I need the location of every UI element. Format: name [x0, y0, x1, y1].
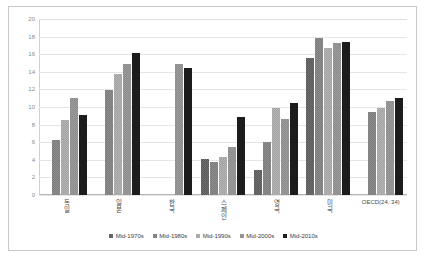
bar [333, 43, 341, 195]
plot-area: 02468101214161820 [39, 19, 407, 195]
bar-slot [123, 19, 131, 195]
legend-item-2[interactable]: Mid-1990s [196, 233, 231, 239]
bar [70, 98, 78, 195]
legend-item-1[interactable]: Mid-1980s [153, 233, 188, 239]
y-axis-tick-label: 8 [32, 122, 35, 128]
legend-item-0[interactable]: Mid-1970s [109, 233, 144, 239]
bar-slot [368, 19, 376, 195]
legend-label: Mid-2010s [290, 233, 318, 239]
bar [228, 147, 236, 195]
x-axis-labels: 독일일본한국스페인영국미국OECD(24, 34) [39, 197, 407, 231]
bar-slot [377, 19, 385, 195]
bar-slot [148, 19, 156, 195]
legend-swatch-icon [240, 234, 244, 238]
bar [79, 115, 87, 195]
legend-item-3[interactable]: Mid-2000s [240, 233, 275, 239]
x-axis-label: 미국 [325, 199, 332, 213]
legend-item-4[interactable]: Mid-2010s [283, 233, 318, 239]
y-axis-tick-label: 0 [32, 192, 35, 198]
bar-slot [272, 19, 280, 195]
gridline-0 [39, 195, 407, 196]
bar-slot [359, 19, 367, 195]
legend-swatch-icon [153, 234, 157, 238]
bar-series-container [39, 19, 407, 195]
bar [219, 157, 227, 195]
bar-slot [315, 19, 323, 195]
bar [377, 108, 385, 195]
bar-group-2 [144, 19, 197, 195]
x-axis-label: 일본 [114, 199, 121, 213]
bar-slot [166, 19, 174, 195]
bar-group-6 [354, 19, 407, 195]
bar [290, 103, 298, 195]
bar-slot [333, 19, 341, 195]
y-axis-tick-label: 2 [32, 174, 35, 180]
y-axis-tick-label: 20 [28, 16, 35, 22]
bar [114, 74, 122, 195]
bar-slot [70, 19, 78, 195]
bar-slot [324, 19, 332, 195]
bar-slot [184, 19, 192, 195]
y-axis-tick-label: 10 [28, 104, 35, 110]
bar [281, 119, 289, 195]
bar [175, 64, 183, 195]
legend-label: Mid-1990s [203, 233, 231, 239]
bar [315, 38, 323, 195]
bar-slot [157, 19, 165, 195]
bar-slot [228, 19, 236, 195]
bar-slot [43, 19, 51, 195]
bar-slot [105, 19, 113, 195]
bar-group-5 [302, 19, 355, 195]
bar-slot [263, 19, 271, 195]
bar [237, 117, 245, 195]
bar-slot [281, 19, 289, 195]
legend-label: Mid-2000s [246, 233, 274, 239]
bar [201, 159, 209, 195]
bar-slot [237, 19, 245, 195]
bar [272, 108, 280, 195]
bar-slot [96, 19, 104, 195]
x-axis-label: OECD(24, 34) [362, 199, 400, 205]
bar [254, 170, 262, 195]
chart-legend: Mid-1970sMid-1980sMid-1990sMid-2000sMid-… [9, 229, 418, 243]
y-axis-tick-label: 4 [32, 157, 35, 163]
bar [263, 142, 271, 195]
bar-group-1 [92, 19, 145, 195]
bar [123, 64, 131, 195]
bar [368, 112, 376, 195]
bar-slot [79, 19, 87, 195]
bar-slot [61, 19, 69, 195]
bar-slot [175, 19, 183, 195]
x-axis-label: 한국 [167, 199, 174, 213]
x-axis-label: 영국 [272, 199, 279, 213]
bar [324, 48, 332, 195]
bar [342, 42, 350, 195]
bar-group-0 [39, 19, 92, 195]
y-axis-tick-label: 18 [28, 34, 35, 40]
bar [132, 53, 140, 195]
bar-slot [201, 19, 209, 195]
y-axis-tick-label: 6 [32, 139, 35, 145]
bar-slot [386, 19, 394, 195]
x-axis-label: 스페인 [220, 199, 227, 220]
legend-swatch-icon [283, 234, 287, 238]
bar-slot [52, 19, 60, 195]
legend-label: Mid-1980s [159, 233, 187, 239]
x-axis-label: 독일 [62, 199, 69, 213]
bar [395, 98, 403, 195]
bar-slot [210, 19, 218, 195]
legend-swatch-icon [196, 234, 200, 238]
bar-group-4 [249, 19, 302, 195]
bar-slot [114, 19, 122, 195]
bar [306, 58, 314, 195]
bar [105, 90, 113, 195]
bar-slot [132, 19, 140, 195]
bar-slot [342, 19, 350, 195]
x-axis-label-cell: 독일 [39, 197, 92, 231]
bar [184, 68, 192, 195]
x-axis-label-cell: OECD(24, 34) [354, 197, 407, 231]
legend-swatch-icon [109, 234, 113, 238]
y-axis-tick-label: 14 [28, 69, 35, 75]
bar-slot [395, 19, 403, 195]
x-axis-label-cell: 일본 [92, 197, 145, 231]
